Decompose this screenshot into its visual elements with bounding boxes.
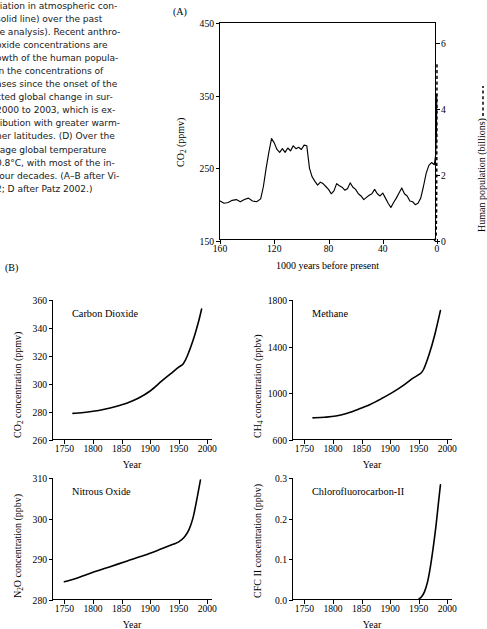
caption-line: riation in atmospheric con- bbox=[0, 0, 176, 13]
y-tick-label: 360 bbox=[33, 295, 47, 306]
caption-line: ases since the onset of the bbox=[0, 78, 176, 91]
y-axis-title-panel-b-cfc: CFC II concentration (ppbv) bbox=[252, 484, 263, 598]
x-axis-title-panel-b-co2: Year bbox=[123, 459, 141, 470]
x-tick bbox=[220, 239, 221, 244]
y-tick bbox=[289, 440, 294, 441]
series-label-panel-b-n2o: Nitrous Oxide bbox=[72, 486, 131, 497]
x-tick bbox=[383, 239, 384, 244]
y-axis-title-panel-b-ch4: CH4 concentration (ppbv) bbox=[252, 334, 265, 438]
y-tick-label: 250 bbox=[200, 163, 214, 174]
x-tick bbox=[390, 599, 391, 604]
series-label-panel-b-co2: Carbon Dioxide bbox=[72, 308, 138, 319]
y-tick-label: 340 bbox=[33, 323, 47, 334]
x-tick-label: 1750 bbox=[295, 443, 314, 454]
series-label-panel-b-cfc: Chlorofluorocarbon-II bbox=[312, 486, 404, 497]
y-tick bbox=[49, 300, 54, 301]
x-tick bbox=[447, 439, 448, 444]
x-tick bbox=[150, 439, 151, 444]
x-tick bbox=[122, 599, 123, 604]
y-tick-label: 320 bbox=[33, 351, 47, 362]
x-tick-label: 1800 bbox=[323, 603, 342, 614]
x-tick-label: 0 bbox=[435, 243, 440, 254]
y-tick bbox=[49, 478, 54, 479]
plot-area-panel-b-n2o: 280290300310175018001850190019502000 bbox=[52, 478, 212, 600]
y-tick-label: 310 bbox=[33, 473, 47, 484]
panel-a-letter: (A) bbox=[173, 6, 187, 17]
y-tick-label: 300 bbox=[33, 379, 47, 390]
x-tick-label: 1750 bbox=[55, 443, 74, 454]
x-tick bbox=[390, 439, 391, 444]
y-tick bbox=[289, 393, 294, 394]
y-tick bbox=[49, 384, 54, 385]
x-axis-title-panel-a: 1000 years before present bbox=[276, 260, 379, 271]
x-tick bbox=[419, 439, 420, 444]
caption-line: re analysis). Recent anthro- bbox=[0, 26, 176, 39]
y-tick bbox=[49, 440, 54, 441]
x-tick bbox=[207, 599, 208, 604]
x-tick bbox=[362, 599, 363, 604]
y-tick bbox=[216, 23, 221, 24]
series-label-panel-b-ch4: Methane bbox=[312, 308, 348, 319]
panel-b-co2-line bbox=[53, 300, 213, 440]
dashed-line-legend-icon bbox=[480, 86, 486, 116]
caption-line: four decades. (A–B after Vi- bbox=[0, 170, 176, 183]
x-tick bbox=[333, 599, 334, 604]
y-tick bbox=[289, 600, 294, 601]
y2-axis-title-panel-a: Human population (billions) bbox=[476, 86, 487, 232]
caption-line: solid line) over the past bbox=[0, 13, 176, 26]
x-tick bbox=[93, 439, 94, 444]
x-tick-label: 1900 bbox=[381, 443, 400, 454]
x-tick bbox=[179, 599, 180, 604]
x-tick-label: 80 bbox=[324, 243, 334, 254]
x-tick-label: 1850 bbox=[112, 603, 131, 614]
x-tick-label: 2000 bbox=[198, 603, 217, 614]
panel-b-cfc-line bbox=[293, 478, 453, 600]
caption-line: ribution with greater warm- bbox=[0, 117, 176, 130]
x-tick-label: 1900 bbox=[141, 603, 160, 614]
y-axis-title-panel-b-co2: CO2 concentration (ppmv) bbox=[12, 332, 25, 438]
y-tick-label: 0.2 bbox=[275, 513, 287, 524]
plot-area-panel-b-cfc: 0.00.10.20.3175018001850190019502000 bbox=[292, 478, 452, 600]
y2-axis-title-text: Human population (billions) bbox=[476, 118, 487, 232]
x-tick-label: 2000 bbox=[438, 603, 457, 614]
x-tick-label: 1750 bbox=[55, 603, 74, 614]
x-tick-label: 1850 bbox=[352, 603, 371, 614]
y-tick bbox=[49, 356, 54, 357]
y-tick-label: 150 bbox=[200, 236, 214, 247]
y-tick bbox=[49, 519, 54, 520]
caption-line: 2; D after Patz 2002.) bbox=[0, 183, 176, 196]
y-tick-label: 350 bbox=[200, 90, 214, 101]
y-axis-title-panel-b-n2o: N2O concentration (ppbv) bbox=[12, 494, 25, 598]
x-tick-label: 1750 bbox=[295, 603, 314, 614]
y2-tick-label: 0 bbox=[441, 236, 446, 247]
x-tick-label: 1950 bbox=[409, 443, 428, 454]
y2-tick-label: 6 bbox=[441, 37, 446, 48]
y-tick-label: 600 bbox=[273, 435, 287, 446]
human-population-line bbox=[220, 23, 437, 241]
caption-line: cted global change in sur- bbox=[0, 91, 176, 104]
x-tick bbox=[333, 439, 334, 444]
x-tick-label: 160 bbox=[213, 243, 227, 254]
x-tick-label: 2000 bbox=[198, 443, 217, 454]
x-tick bbox=[304, 439, 305, 444]
plot-area-panel-b-ch4: 600100014001800175018001850190019502000 bbox=[292, 300, 452, 440]
y-tick bbox=[289, 347, 294, 348]
x-tick bbox=[362, 439, 363, 444]
x-tick bbox=[274, 239, 275, 244]
y-tick bbox=[216, 168, 221, 169]
x-tick-label: 1800 bbox=[83, 443, 102, 454]
x-tick-label: 1950 bbox=[409, 603, 428, 614]
x-tick bbox=[64, 439, 65, 444]
y-tick bbox=[49, 559, 54, 560]
y2-tick bbox=[435, 175, 440, 176]
y-tick-label: 1000 bbox=[268, 388, 287, 399]
x-tick bbox=[437, 239, 438, 244]
co2-proxy-line bbox=[220, 23, 437, 241]
x-tick-label: 1850 bbox=[112, 443, 131, 454]
y2-tick-label: 4 bbox=[441, 103, 446, 114]
x-tick bbox=[207, 439, 208, 444]
panel-b-letter: (B) bbox=[5, 262, 18, 273]
x-tick bbox=[64, 599, 65, 604]
x-tick bbox=[419, 599, 420, 604]
x-tick bbox=[179, 439, 180, 444]
